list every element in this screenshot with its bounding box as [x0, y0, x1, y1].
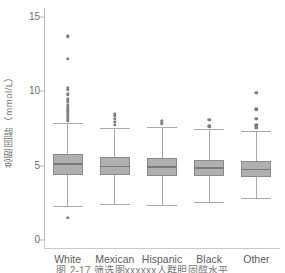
- figure-caption: 图 2-17 筛选图xxxxxx人群胆固醇水平: [0, 265, 285, 273]
- outlier-point: [66, 35, 69, 38]
- whisker-lower: [162, 176, 163, 205]
- whisker-cap-lower: [147, 205, 177, 206]
- y-axis-tick-label: 0: [34, 235, 40, 245]
- median-line: [100, 166, 130, 168]
- median-line: [147, 166, 177, 168]
- whisker-lower: [209, 176, 210, 202]
- plot-area: 051015WhiteMexicanHispanicBlackOther: [44, 8, 280, 240]
- whisker-upper: [162, 127, 163, 158]
- median-line: [194, 167, 224, 169]
- y-axis-tick-label: 15: [29, 12, 40, 22]
- boxplot-figure: 总胆固醇（mmol/L） 051015WhiteMexicanHispanicB…: [0, 0, 285, 273]
- whisker-cap-upper: [241, 131, 271, 132]
- whisker-cap-lower: [53, 206, 83, 207]
- y-axis-tick-mark: [40, 16, 44, 17]
- whisker-cap-upper: [147, 127, 177, 128]
- outlier-point: [255, 107, 258, 110]
- x-axis-category-label: Mexican: [95, 254, 134, 265]
- x-axis-category-label: Other: [243, 254, 269, 265]
- whisker-upper: [114, 128, 115, 156]
- whisker-cap-lower: [194, 202, 224, 203]
- y-axis-tick-mark: [40, 240, 44, 241]
- whisker-lower: [256, 177, 257, 198]
- outlier-point: [207, 118, 210, 121]
- y-axis-label-text: 总胆固醇（mmol/L）: [4, 71, 14, 168]
- x-axis-category-label: Hispanic: [142, 254, 182, 265]
- x-axis-spine: [44, 248, 280, 249]
- x-axis-category-label: White: [54, 254, 81, 265]
- outlier-point: [66, 57, 69, 60]
- y-axis-tick-label: 10: [29, 86, 40, 96]
- median-line: [241, 169, 271, 171]
- y-axis-label: 总胆固醇（mmol/L）: [0, 0, 18, 240]
- x-axis-category-label: Black: [196, 254, 222, 265]
- y-axis-tick-label: 5: [34, 161, 40, 171]
- outlier-point: [66, 216, 69, 219]
- y-axis-tick-mark: [40, 165, 44, 166]
- outlier-point: [113, 123, 116, 126]
- whisker-cap-upper: [100, 128, 130, 129]
- y-axis-spine: [44, 8, 45, 241]
- y-axis-tick-mark: [40, 91, 44, 92]
- whisker-cap-lower: [100, 204, 130, 205]
- whisker-cap-upper: [53, 123, 83, 124]
- whisker-upper: [67, 123, 68, 154]
- whisker-cap-upper: [194, 129, 224, 130]
- median-line: [53, 163, 83, 165]
- whisker-lower: [67, 175, 68, 206]
- outlier-point: [255, 117, 258, 120]
- outlier-point: [207, 125, 210, 128]
- whisker-cap-lower: [241, 198, 271, 199]
- outlier-point: [66, 93, 69, 96]
- whisker-lower: [114, 175, 115, 204]
- whisker-upper: [256, 131, 257, 161]
- axis-origin-step: [44, 240, 45, 248]
- whisker-upper: [209, 129, 210, 159]
- outlier-point: [255, 91, 258, 94]
